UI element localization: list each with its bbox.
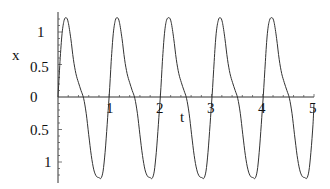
- plot-area: x 1 0.5 0 0.5 1 1 2 3 4 5 t: [0, 0, 330, 189]
- x-tick-label-1: 1: [106, 100, 114, 116]
- y-axis-label: x: [12, 47, 20, 63]
- x-tick-label-2: 2: [156, 100, 164, 116]
- y-tick-label-1: 1: [37, 24, 45, 40]
- x-axis-label: t: [180, 109, 185, 125]
- y-tick-label-neg-0.5: 0.5: [30, 122, 49, 138]
- x-tick-label-3: 3: [207, 100, 215, 116]
- y-tick-label-0.5: 0.5: [30, 59, 49, 75]
- x-tick-label-5: 5: [309, 100, 317, 116]
- x-tick-label-4: 4: [258, 100, 266, 116]
- data-curve: [58, 18, 314, 179]
- y-tick-label-0: 0: [30, 89, 38, 105]
- y-tick-label-neg-1: 1: [44, 154, 52, 170]
